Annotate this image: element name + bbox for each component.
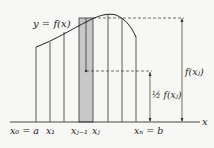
diagram-canvas: y = f(x) x f(xⱼ) ½ f(xⱼ) x₀ = a x₁ xⱼ₋₁ … bbox=[0, 0, 214, 148]
tick-label-x0: x₀ = a bbox=[10, 125, 39, 136]
tick-label-xn: xₙ = b bbox=[134, 125, 163, 136]
arrow-heads bbox=[149, 18, 184, 122]
riemann-sum-diagram: y = f(x) x f(xⱼ) ½ f(xⱼ) x₀ = a x₁ xⱼ₋₁ … bbox=[0, 0, 214, 148]
tick-label-xj: xⱼ bbox=[92, 125, 100, 136]
dashed-guides bbox=[86, 18, 184, 71]
midpoint-dot bbox=[85, 70, 87, 72]
height-arrows bbox=[150, 19, 182, 121]
axis-label: x bbox=[202, 116, 208, 127]
half-height-label: ½ f(xⱼ) bbox=[152, 90, 182, 100]
tick-label-xj-1: xⱼ₋₁ bbox=[71, 125, 88, 136]
curve-label: y = f(x) bbox=[32, 18, 71, 29]
height-label: f(xⱼ) bbox=[184, 66, 204, 77]
tick-label-x1: x₁ bbox=[46, 125, 55, 136]
